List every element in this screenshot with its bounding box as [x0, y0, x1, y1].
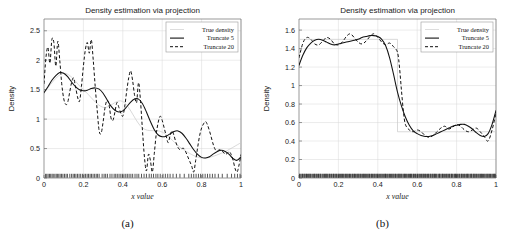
- chart-b: Density estimation via projection00.20.4…: [255, 0, 510, 205]
- x-tick-label: 0.6: [157, 180, 167, 189]
- y-axis-label: Density: [7, 86, 16, 112]
- x-tick-label: 0.4: [373, 180, 383, 189]
- panel-b: Density estimation via projection00.20.4…: [255, 0, 510, 231]
- chart-title: Density estimation via projection: [340, 6, 455, 15]
- y-axis-label: Density: [262, 86, 271, 112]
- x-tick-label: 0.4: [118, 180, 128, 189]
- y-tick-label: 2: [36, 56, 40, 65]
- x-tick-label: 0.6: [412, 180, 422, 189]
- y-tick-label: 0: [36, 174, 40, 183]
- legend-label: Truncate 20: [204, 43, 234, 50]
- y-tick-label: 1.4: [285, 44, 295, 53]
- panel-a-caption: (a): [0, 217, 255, 229]
- y-tick-label: 2.5: [30, 26, 40, 35]
- series-group: [299, 34, 496, 178]
- chart-title: Density estimation via projection: [85, 6, 200, 15]
- y-tick-label: 1: [36, 115, 40, 124]
- x-tick-label: 0.8: [452, 180, 462, 189]
- legend-label: Truncate 20: [459, 43, 489, 50]
- data-rug: [299, 174, 495, 178]
- x-tick-label: 0.2: [333, 180, 343, 189]
- series-solid: [44, 72, 241, 160]
- x-tick-label: 1: [239, 180, 243, 189]
- series-true: [44, 73, 241, 158]
- x-axis-label: x value: [385, 192, 409, 201]
- y-tick-label: 0.2: [285, 155, 295, 164]
- x-tick-label: 0: [42, 180, 46, 189]
- y-tick-label: 1.5: [30, 85, 40, 94]
- panel-b-caption: (b): [255, 217, 510, 229]
- chart-a: Density estimation via projection00.511.…: [0, 0, 255, 205]
- y-tick-label: 0: [291, 174, 295, 183]
- y-tick-label: 0.5: [30, 144, 40, 153]
- legend-label: True density: [457, 26, 490, 33]
- x-tick-label: 0.8: [197, 180, 207, 189]
- legend[interactable]: True densityTruncate 5Truncate 20: [166, 22, 238, 52]
- x-tick-label: 0.2: [78, 180, 88, 189]
- figure-container: Density estimation via projection00.511.…: [0, 0, 510, 231]
- y-tick-label: 0.4: [285, 137, 295, 146]
- series-group: [44, 38, 241, 178]
- panel-a: Density estimation via projection00.511.…: [0, 0, 255, 231]
- legend-label: True density: [202, 26, 235, 33]
- y-tick-label: 1: [291, 81, 295, 90]
- series-dashed: [44, 38, 241, 172]
- x-tick-label: 1: [494, 180, 498, 189]
- y-tick-label: 1.6: [285, 26, 295, 35]
- x-tick-label: 0: [297, 180, 301, 189]
- data-rug: [46, 174, 240, 178]
- y-tick-label: 1.2: [285, 63, 295, 72]
- y-tick-label: 0.8: [285, 100, 295, 109]
- legend-label: Truncate 5: [207, 34, 234, 41]
- x-axis-label: x value: [130, 192, 154, 201]
- legend[interactable]: True densityTruncate 5Truncate 20: [421, 22, 493, 52]
- y-tick-label: 0.6: [285, 118, 295, 127]
- legend-label: Truncate 5: [462, 34, 489, 41]
